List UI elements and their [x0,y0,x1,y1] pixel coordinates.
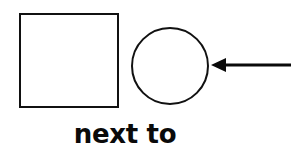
caption-label: next to [74,119,177,149]
diagram-svg: next to [0,0,298,149]
diagram-canvas: next to [0,0,298,149]
square-shape [20,14,118,107]
arrow-head-icon [211,58,226,72]
circle-shape [132,28,208,104]
arrow-shaft [223,64,291,67]
left-pointing-arrow [211,58,291,72]
